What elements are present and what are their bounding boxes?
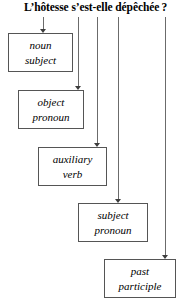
- connector-to-noun-subject: [43, 17, 44, 29]
- page-title: L’hôtesse s’est-elle dépêchée ?: [0, 1, 191, 13]
- node-noun-subject-line1: noun: [30, 38, 52, 53]
- node-object-pronoun-line2: pronoun: [33, 110, 70, 125]
- diagram-canvas: L’hôtesse s’est-elle dépêchée ? noun sub…: [0, 0, 191, 302]
- node-auxiliary-verb: auxiliary verb: [38, 147, 107, 186]
- connector-to-subject-pronoun: [118, 17, 119, 199]
- node-object-pronoun-line1: object: [38, 95, 65, 110]
- node-subject-pronoun: subject pronoun: [78, 203, 148, 242]
- node-auxiliary-verb-line1: auxiliary: [53, 152, 93, 167]
- connector-to-past-participle: [165, 17, 166, 255]
- node-noun-subject-line2: subject: [25, 53, 56, 68]
- node-past-participle-line1: past: [131, 264, 149, 279]
- node-subject-pronoun-line1: subject: [97, 208, 128, 223]
- node-auxiliary-verb-line2: verb: [63, 167, 83, 182]
- connector-to-auxiliary-verb: [97, 17, 98, 143]
- node-subject-pronoun-line2: pronoun: [95, 223, 132, 238]
- node-object-pronoun: object pronoun: [18, 90, 84, 129]
- connector-to-object-pronoun: [78, 17, 79, 86]
- node-noun-subject: noun subject: [8, 33, 73, 72]
- node-past-participle-line2: participle: [119, 279, 162, 294]
- node-past-participle: past participle: [104, 259, 176, 298]
